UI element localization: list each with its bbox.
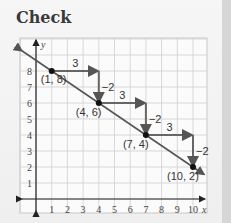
rise-label: −2	[196, 145, 209, 157]
x-tick-label: 9	[175, 204, 180, 215]
y-tick-label: 6	[27, 98, 32, 109]
y-tick-label: 2	[27, 162, 32, 173]
y-tick-label: 4	[27, 130, 32, 141]
x-tick-label: 4	[96, 204, 101, 215]
x-tick-label: 6	[128, 204, 133, 215]
point-label: (4, 6)	[76, 106, 102, 118]
point-label: (7, 4)	[123, 138, 149, 150]
point-label: (10, 2)	[167, 170, 199, 182]
rise-label: −2	[102, 81, 115, 93]
y-tick-label: 5	[27, 114, 32, 125]
x-tick-label: 2	[65, 204, 70, 215]
x-tick-label: 10	[188, 204, 198, 215]
y-axis-label: y	[40, 39, 46, 50]
grid-background	[20, 38, 207, 213]
y-tick-label: 3	[27, 146, 32, 157]
x-tick-label: 8	[159, 204, 164, 215]
y-tick-label: 8	[27, 66, 32, 77]
chart: yx12345678910123456783−23−23−2(1, 8)(4, …	[0, 0, 231, 223]
rise-label: −2	[149, 113, 162, 125]
x-tick-label: 5	[112, 204, 117, 215]
run-label: 3	[166, 121, 172, 133]
run-label: 3	[72, 57, 78, 69]
y-tick-label: 7	[27, 82, 32, 93]
x-tick-label: 1	[49, 204, 54, 215]
x-axis-label: x	[201, 204, 207, 215]
point-label: (1, 8)	[41, 73, 67, 85]
x-tick-label: 3	[81, 204, 86, 215]
run-label: 3	[119, 89, 125, 101]
x-tick-label: 7	[143, 204, 148, 215]
y-tick-label: 1	[27, 178, 32, 189]
